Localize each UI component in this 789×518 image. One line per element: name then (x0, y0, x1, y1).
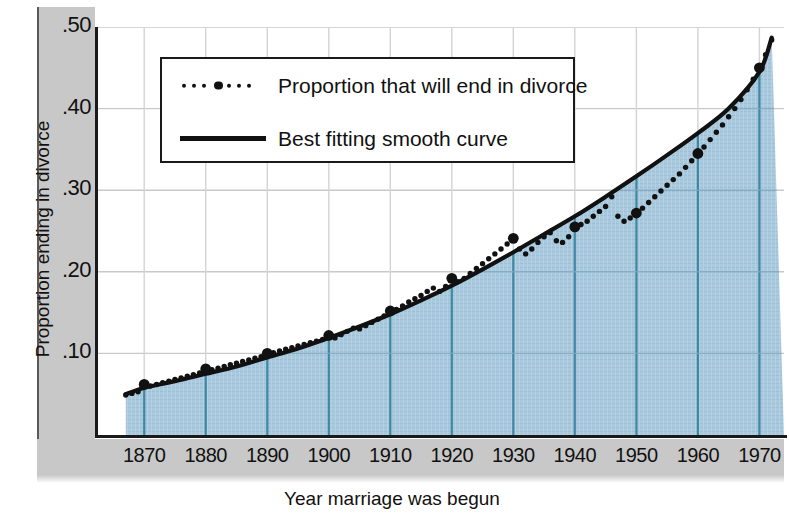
x-tick-label: 1930 (483, 444, 543, 467)
x-tick-label: 1880 (176, 444, 236, 467)
legend-entry-dots: Proportion that will end in divorce (162, 59, 573, 112)
x-tick-label: 1890 (237, 444, 297, 467)
y-axis-title: Proportion ending in divorce (32, 74, 54, 404)
legend-entry-line: Best fitting smooth curve (162, 112, 573, 165)
x-tick-label: 1920 (422, 444, 482, 467)
x-tick-label: 1950 (606, 444, 666, 467)
legend-label-dots: Proportion that will end in divorce (278, 74, 587, 98)
x-tick-label: 1970 (729, 444, 789, 467)
legend-label-line: Best fitting smooth curve (278, 127, 508, 151)
solid-line-key-icon (180, 136, 266, 141)
x-tick-label: 1960 (668, 444, 728, 467)
y-axis-title-wrap: Proportion ending in divorce (18, 30, 19, 31)
x-tick-label: 1870 (114, 444, 174, 467)
dotted-series-key-icon (180, 81, 266, 91)
chart-legend: Proportion that will end in divorce Best… (160, 57, 575, 163)
y-tick-label: .50 (37, 12, 91, 38)
x-tick-label: 1910 (360, 444, 420, 467)
x-axis-title: Year marriage was begun (0, 488, 784, 510)
page-edge-shade (37, 475, 784, 483)
x-tick-label: 1900 (299, 444, 359, 467)
x-tick-label: 1940 (545, 444, 605, 467)
